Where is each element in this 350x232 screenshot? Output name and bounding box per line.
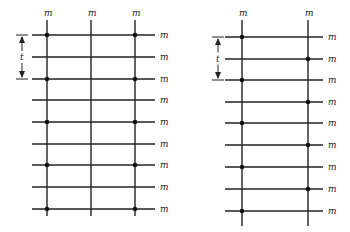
lattice-point bbox=[133, 120, 138, 125]
row-label-m: m bbox=[160, 30, 169, 40]
lattice-point bbox=[306, 100, 311, 105]
row-label-m: m bbox=[328, 184, 337, 194]
lattice-point bbox=[45, 33, 50, 38]
row-label-m: m bbox=[160, 95, 169, 105]
lattice-point bbox=[45, 120, 50, 125]
arrow-up-icon bbox=[215, 38, 221, 45]
spacing-label-t: t bbox=[20, 52, 24, 62]
lattice-point bbox=[240, 35, 245, 40]
lattice-point bbox=[45, 207, 50, 212]
row-label-m: m bbox=[328, 118, 337, 128]
lattice-point bbox=[240, 165, 245, 170]
lattice-point bbox=[133, 163, 138, 168]
arrow-down-icon bbox=[19, 71, 25, 78]
lattice-point bbox=[133, 77, 138, 82]
row-label-m: m bbox=[328, 206, 337, 216]
lattice-point bbox=[306, 187, 311, 192]
row-label-m: m bbox=[160, 117, 169, 127]
lattice-point bbox=[240, 209, 245, 214]
column-label-m: m bbox=[88, 8, 97, 18]
row-label-m: m bbox=[160, 52, 169, 62]
lattice-point bbox=[306, 57, 311, 62]
row-label-m: m bbox=[328, 97, 337, 107]
row-label-m: m bbox=[328, 162, 337, 172]
column-label-m: m bbox=[239, 8, 248, 18]
lattice-point bbox=[306, 143, 311, 148]
row-label-m: m bbox=[328, 75, 337, 85]
lattice-point bbox=[240, 121, 245, 126]
column-label-m: m bbox=[305, 8, 314, 18]
arrow-up-icon bbox=[19, 36, 25, 43]
row-label-m: m bbox=[160, 182, 169, 192]
lattice-diagram: mmmmmmmmmmmmtmmmmmmmmmmmt bbox=[0, 0, 350, 232]
row-label-m: m bbox=[160, 139, 169, 149]
lattice-point bbox=[133, 207, 138, 212]
spacing-label-t: t bbox=[216, 54, 220, 64]
row-label-m: m bbox=[160, 160, 169, 170]
column-label-m: m bbox=[44, 8, 53, 18]
lattice-point bbox=[45, 163, 50, 168]
lattice-point bbox=[45, 77, 50, 82]
lattice-point bbox=[240, 78, 245, 83]
row-label-m: m bbox=[328, 140, 337, 150]
row-label-m: m bbox=[328, 54, 337, 64]
row-label-m: m bbox=[328, 32, 337, 42]
lattice-point bbox=[133, 33, 138, 38]
arrow-down-icon bbox=[215, 72, 221, 79]
row-label-m: m bbox=[160, 204, 169, 214]
column-label-m: m bbox=[132, 8, 141, 18]
row-label-m: m bbox=[160, 74, 169, 84]
